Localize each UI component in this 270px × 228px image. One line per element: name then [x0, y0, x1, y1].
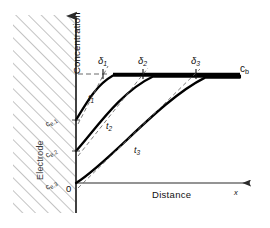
y-axis-label: Concentration [72, 12, 82, 74]
origin-label: 0 [66, 184, 71, 194]
curve-t2 [76, 77, 240, 152]
delta-subscript-1: 1 [103, 60, 107, 67]
figure-canvas [0, 0, 270, 228]
delta-label-1: δ1 [98, 56, 107, 68]
x-axis-variable: x [234, 189, 238, 197]
delta-label-2: δ2 [138, 56, 147, 68]
delta-subscript-2: 2 [143, 60, 147, 67]
delta-label-3: δ3 [191, 56, 200, 68]
time-subscript-1: 1 [91, 97, 95, 104]
time-subscript-3: 3 [137, 149, 141, 156]
time-label-3: t3 [134, 146, 140, 156]
x-axis-label: Distance [152, 190, 191, 200]
tangent-line-t2 [78, 68, 148, 156]
time-subscript-2: 2 [109, 125, 113, 132]
electrode-region-label: Electrode [36, 140, 45, 180]
concentration-profile-figure: Concentration Distance x Electrode 0 cb … [0, 0, 270, 228]
bulk-concentration-subscript: b [245, 67, 249, 76]
delta-subscript-3: 3 [196, 60, 200, 67]
time-label-2: t2 [106, 122, 112, 132]
curve-t1 [76, 76, 240, 120]
bulk-concentration-label: cb [240, 64, 249, 75]
curve-t3 [76, 78, 240, 183]
time-label-1: t1 [88, 94, 94, 104]
